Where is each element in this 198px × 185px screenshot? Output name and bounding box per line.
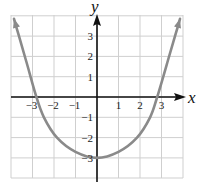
- x-axis-label: x: [187, 88, 196, 107]
- x-tick-label: 3: [159, 99, 165, 111]
- x-tick-label: −1: [69, 99, 81, 111]
- curve-arrow-icon: [174, 19, 181, 29]
- y-tick-label: 3: [88, 30, 94, 42]
- x-tick-label: 1: [116, 99, 122, 111]
- x-tick-label: 2: [137, 99, 143, 111]
- y-tick-label: 2: [88, 50, 94, 62]
- y-axis-label: y: [89, 0, 99, 16]
- y-tick-label: −1: [81, 111, 93, 123]
- y-tick-label: −3: [81, 152, 93, 164]
- x-tick-label: −3: [26, 99, 38, 111]
- x-tick-label: −2: [47, 99, 59, 111]
- curve-arrow-icon: [13, 19, 20, 29]
- parabola-graph: −3−2−1123321−1−2−3 y x: [0, 0, 198, 185]
- y-tick-label: −2: [81, 132, 93, 144]
- y-tick-label: 1: [88, 71, 94, 83]
